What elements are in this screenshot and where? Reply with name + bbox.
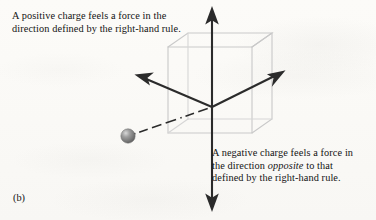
caption-negative-charge: A negative charge feels a force in the d… — [212, 147, 353, 185]
caption-negative-emphasis-word: opposite — [268, 160, 304, 171]
diagonal-axis-left-arrowhead — [137, 74, 150, 83]
caption-negative-line-3: defined by the right-hand rule. — [212, 172, 353, 185]
panel-label: (b) — [13, 192, 25, 203]
caption-negative-line-2-suffix: to that — [304, 160, 333, 171]
field-region-cube — [168, 33, 272, 133]
caption-positive-line-1: A positive charge feels a force in the — [12, 10, 181, 23]
charge-sphere — [121, 129, 135, 143]
diagonal-axis-left-shaft — [145, 78, 213, 107]
caption-negative-line-2-prefix: the direction — [212, 160, 268, 171]
caption-negative-line-1: A negative charge feels a force in — [212, 147, 353, 160]
caption-positive-line-2: direction defined by the right-hand rule… — [12, 23, 181, 36]
vertical-axis-down-arrowhead — [207, 196, 217, 209]
caption-negative-line-2: the direction opposite to that — [212, 160, 353, 173]
caption-positive-charge: A positive charge feels a force in the d… — [12, 10, 181, 35]
vertical-axis-up-arrowhead — [207, 9, 217, 22]
figure-panel: A positive charge feels a force in the d… — [0, 0, 376, 220]
diagonal-axis-right-shaft — [212, 76, 276, 108]
